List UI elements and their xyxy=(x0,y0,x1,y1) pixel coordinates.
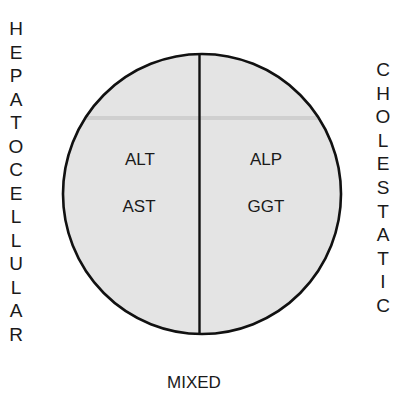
letter: R xyxy=(9,323,23,347)
letter: H xyxy=(376,82,390,106)
marker-ast: AST xyxy=(99,197,179,217)
letter: C xyxy=(376,58,390,82)
letter: C xyxy=(376,294,390,318)
letter: T xyxy=(377,200,389,224)
letter: E xyxy=(10,41,23,65)
letter: A xyxy=(10,299,23,323)
letter: U xyxy=(9,252,23,276)
liver-pattern-diagram xyxy=(0,0,409,404)
letter: L xyxy=(11,229,22,253)
letter: L xyxy=(378,129,389,153)
marker-alt: ALT xyxy=(100,150,180,170)
letter: L xyxy=(11,205,22,229)
letter: O xyxy=(376,105,391,129)
letter: I xyxy=(380,270,385,294)
letter: T xyxy=(377,247,389,271)
letter: P xyxy=(10,64,23,88)
letter: E xyxy=(377,152,390,176)
letter: S xyxy=(377,176,390,200)
ellipse-fill xyxy=(63,54,341,334)
mixed-label: MIXED xyxy=(167,373,221,393)
scan-artifact-band xyxy=(0,116,409,120)
hepatocellular-axis-label: H E P A T O C E L L U L A R xyxy=(4,17,28,346)
letter: O xyxy=(9,135,24,159)
cholestatic-axis-label: C H O L E S T A T I C xyxy=(371,58,395,318)
letter: H xyxy=(9,17,23,41)
letter: L xyxy=(11,276,22,300)
marker-alp: ALP xyxy=(226,150,306,170)
marker-ggt: GGT xyxy=(226,197,306,217)
letter: E xyxy=(10,182,23,206)
letter: C xyxy=(9,158,23,182)
letter: A xyxy=(377,223,390,247)
letter: T xyxy=(10,111,22,135)
letter: A xyxy=(10,88,23,112)
